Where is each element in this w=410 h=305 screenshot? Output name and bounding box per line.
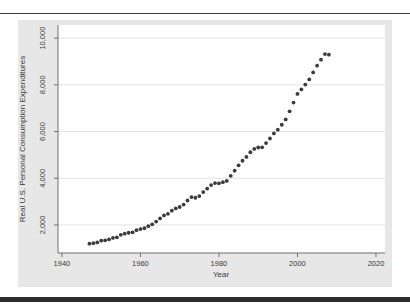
data-point (99, 239, 103, 243)
data-point (162, 214, 166, 218)
data-point (178, 205, 182, 209)
data-point (123, 232, 127, 236)
data-point (233, 169, 237, 173)
data-point (311, 70, 315, 74)
bottom-rule (0, 297, 410, 302)
data-point (292, 101, 296, 105)
data-point (217, 181, 221, 185)
data-point (260, 145, 264, 149)
data-point (88, 242, 92, 246)
data-point (268, 137, 272, 141)
data-point (146, 224, 150, 228)
data-point (166, 212, 170, 216)
y-tick-label: 8,000 (38, 75, 47, 94)
data-point (115, 235, 119, 239)
data-point (142, 226, 146, 230)
data-point (323, 52, 327, 56)
data-point (119, 233, 123, 237)
data-point (174, 207, 178, 211)
data-point (111, 236, 115, 240)
data-point (103, 238, 107, 242)
scatter-plot: 194019601980200020202,0004,0006,0008,000… (18, 20, 392, 287)
data-point (288, 109, 292, 113)
y-tick-label: 10,000 (38, 27, 47, 50)
data-point (201, 190, 205, 194)
data-point (186, 199, 190, 203)
data-point (135, 228, 139, 232)
data-point (221, 180, 225, 184)
x-axis-title: Year (213, 271, 229, 279)
data-point (327, 53, 331, 57)
data-point (127, 231, 131, 235)
y-tick-label: 2,000 (38, 216, 47, 235)
x-tick-label: 1960 (132, 259, 149, 268)
page: 194019601980200020202,0004,0006,0008,000… (0, 0, 410, 305)
x-tick-label: 1980 (211, 259, 228, 268)
data-point (205, 187, 209, 191)
data-point (315, 64, 319, 68)
data-point (150, 222, 154, 226)
data-point (245, 155, 249, 159)
data-point (170, 209, 174, 213)
data-point (107, 238, 111, 242)
data-point (209, 183, 213, 187)
data-point (139, 227, 143, 231)
data-point (252, 147, 256, 151)
data-point (284, 117, 288, 121)
data-point (95, 241, 99, 245)
y-tick-label: 6,000 (38, 122, 47, 141)
data-point (225, 179, 229, 183)
data-point (276, 128, 280, 132)
x-tick-label: 2000 (289, 259, 306, 268)
data-point (303, 83, 307, 87)
data-point (131, 230, 135, 234)
data-point (296, 92, 300, 96)
data-point (264, 141, 268, 145)
figure: 194019601980200020202,0004,0006,0008,000… (18, 20, 392, 287)
top-rule (0, 13, 410, 14)
data-point (272, 132, 276, 136)
data-point (299, 88, 303, 92)
data-point (229, 174, 233, 178)
data-point (197, 194, 201, 198)
data-point (158, 217, 162, 221)
data-point (237, 163, 241, 167)
data-point (91, 241, 95, 245)
data-point (319, 58, 323, 62)
data-point (154, 220, 158, 224)
data-point (182, 203, 186, 207)
data-point (280, 123, 284, 127)
data-point (248, 150, 252, 154)
data-point (213, 181, 217, 185)
data-point (193, 196, 197, 200)
data-point (307, 77, 311, 81)
plot-area (58, 25, 385, 253)
x-tick-label: 1940 (54, 259, 71, 268)
data-point (256, 146, 260, 150)
data-point (190, 195, 194, 199)
y-axis-title: Real U.S. Personal Consumption Expenditu… (19, 56, 27, 222)
data-point (241, 159, 245, 163)
y-tick-label: 4,000 (38, 169, 47, 188)
x-tick-label: 2020 (368, 259, 385, 268)
